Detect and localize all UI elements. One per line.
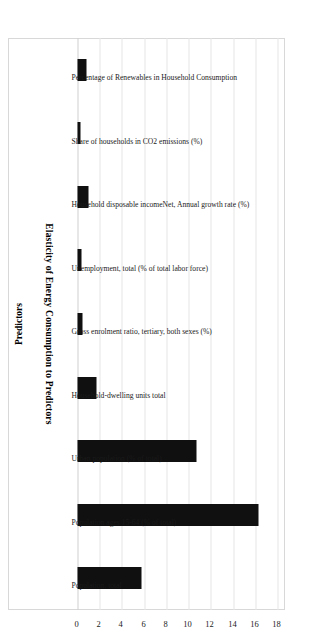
category-label-5: Household-dwelling units total — [71, 391, 165, 400]
bar-slot — [77, 38, 277, 102]
bar-slot — [77, 165, 277, 229]
value-tick-label-18: 18 — [265, 619, 287, 629]
bar-slot — [77, 547, 277, 611]
category-label-3: Unemployment, total (% of total labor fo… — [71, 264, 207, 273]
value-tick-label-8: 8 — [154, 619, 176, 629]
value-tick-label-0: 0 — [65, 619, 87, 629]
bar-slot — [77, 102, 277, 166]
figure-frame: 024681012141618 Elasticity of Energy Con… — [8, 38, 285, 610]
bar-slot — [77, 229, 277, 293]
value-tick-label-2: 2 — [87, 619, 109, 629]
category-label-8: Population, total — [71, 581, 121, 590]
bar-slot — [77, 292, 277, 356]
category-label-1: Share of households in CO2 emissions (%) — [71, 137, 202, 146]
category-label-4: Gross enrolment ratio, tertiary, both se… — [71, 327, 211, 336]
bar-slot — [77, 483, 277, 547]
bar-slot — [77, 419, 277, 483]
category-label-2: Household disposable incomeNet, Annual g… — [71, 200, 249, 209]
value-tick-label-14: 14 — [221, 619, 243, 629]
value-tick-label-6: 6 — [132, 619, 154, 629]
chart-stage: 024681012141618 Elasticity of Energy Con… — [8, 38, 285, 610]
value-tick-label-10: 10 — [176, 619, 198, 629]
value-tick-label-16: 16 — [243, 619, 265, 629]
category-axis-title: Predictors — [13, 38, 23, 610]
category-label-7: Population ages 15-64 (% of total) — [71, 518, 176, 527]
category-label-0: Percentage of Renewables in Household Co… — [71, 73, 237, 82]
category-label-6: Urban population (% of total) — [71, 454, 161, 463]
bar-slot — [77, 356, 277, 420]
value-tick-label-12: 12 — [198, 619, 220, 629]
value-axis-title: Elasticity of Energy Consumption to Pred… — [43, 38, 53, 610]
value-tick-label-4: 4 — [109, 619, 131, 629]
